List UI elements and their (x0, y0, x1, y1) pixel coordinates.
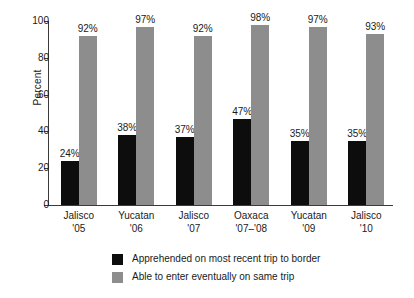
bar-group: 35%93% (348, 21, 384, 205)
y-axis-label: Percent (32, 53, 43, 123)
legend-swatch-able-to-enter (112, 272, 123, 283)
bar-value-label: 97% (128, 14, 162, 25)
y-tick-label: 60 (14, 90, 49, 100)
bar-apprehended (348, 141, 366, 205)
bar-able-to-enter (136, 27, 154, 205)
legend-item: Apprehended on most recent trip to borde… (112, 250, 402, 268)
x-tick-label-place: Jalisco (323, 209, 409, 222)
legend-item: Able to enter eventually on same trip (112, 268, 402, 286)
bar-able-to-enter (366, 34, 384, 205)
bar-apprehended (233, 119, 251, 205)
bar-group: 37%92% (176, 21, 212, 205)
legend-label: Able to enter eventually on same trip (132, 271, 294, 283)
x-axis-line (48, 205, 393, 206)
y-tick-label-text: 40 (23, 126, 49, 136)
bar-able-to-enter (251, 25, 269, 205)
bar-apprehended (118, 135, 136, 205)
bar-value-label: 98% (243, 12, 277, 23)
bar-group: 35%97% (291, 21, 327, 205)
bar-value-label: 92% (71, 23, 105, 34)
bar-apprehended (61, 161, 79, 205)
y-tick-label: 20 (14, 163, 49, 173)
y-tick-label-text: 80 (23, 53, 49, 63)
bar-value-label: 97% (301, 14, 335, 25)
bar-able-to-enter (309, 27, 327, 205)
x-tick-label-year: '10 (323, 222, 409, 235)
y-tick-label: 80 (14, 53, 49, 63)
y-tick-label-text: 60 (23, 90, 49, 100)
y-tick-label-text: 20 (23, 163, 49, 173)
x-tick-label: Jalisco'10 (323, 209, 409, 235)
legend-swatch-apprehended (112, 254, 123, 265)
bar-able-to-enter (79, 36, 97, 205)
bar-apprehended (176, 137, 194, 205)
bar-group: 38%97% (118, 21, 154, 205)
chart-legend: Apprehended on most recent trip to borde… (112, 250, 402, 286)
y-tick-label: 40 (14, 126, 49, 136)
bar-value-label: 92% (186, 23, 220, 34)
bar-apprehended (291, 141, 309, 205)
plot-area: 24%92%38%97%37%92%47%98%35%97%35%93% (48, 21, 393, 205)
bar-value-label: 93% (358, 21, 392, 32)
y-tick-label-text: 100 (23, 16, 49, 26)
bar-able-to-enter (194, 36, 212, 205)
bar-chart-figure: Percent 020406080100 24%92%38%97%37%92%4… (0, 0, 414, 298)
bar-group: 47%98% (233, 21, 269, 205)
bar-group: 24%92% (61, 21, 97, 205)
y-tick-label: 100 (14, 16, 49, 26)
legend-label: Apprehended on most recent trip to borde… (132, 253, 320, 265)
